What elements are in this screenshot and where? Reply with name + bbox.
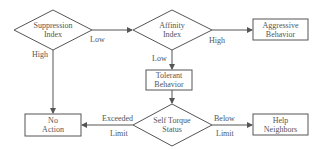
tolerant-behavior-label: Tolerant Behavior [146, 70, 192, 90]
tolerant-line2: Behavior [154, 80, 183, 89]
aggressive-line2: Behavior [266, 30, 295, 39]
edge-label-suppression-low: Low [90, 35, 105, 44]
self-torque-line2: Status [162, 125, 182, 134]
self-torque-line1: Self Torque [153, 116, 190, 125]
affinity-line1: Affinity [159, 21, 185, 30]
edge-label-affinity-low: Low [152, 54, 167, 63]
tolerant-line1: Tolerant [156, 71, 183, 80]
edge-label-suppression-high: High [32, 50, 48, 59]
no-action-line1: No [48, 116, 58, 125]
suppression-line2: Index [44, 30, 62, 39]
edge-label-exceeded-limit: Limit [110, 129, 128, 138]
no-action-label: No Action [25, 114, 81, 136]
self-torque-status-label: Self Torque Status [143, 115, 201, 135]
help-neighbors-line2: Neighbors [264, 125, 297, 134]
edge-label-exceeded: Exceeded [102, 114, 133, 123]
aggressive-line1: Aggressive [263, 21, 299, 30]
aggressive-behavior-label: Aggressive Behavior [253, 19, 308, 40]
affinity-index-label: Affinity Index [143, 20, 201, 40]
edge-label-affinity-high: High [209, 36, 225, 45]
suppression-index-label: Suppression Index [24, 20, 82, 40]
suppression-line1: Suppression [33, 21, 72, 30]
edge-label-below: Below [214, 114, 235, 123]
affinity-line2: Index [163, 30, 181, 39]
edge-label-below-limit: Limit [216, 129, 234, 138]
no-action-line2: Action [42, 125, 64, 134]
help-neighbors-label: Help Neighbors [253, 114, 308, 135]
help-neighbors-line1: Help [273, 116, 289, 125]
